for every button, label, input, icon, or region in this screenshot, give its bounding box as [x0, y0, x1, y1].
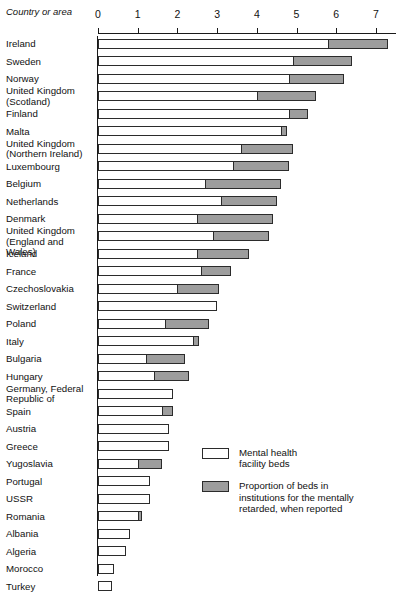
stacked-bar — [98, 354, 185, 364]
chart-row: Turkey — [0, 580, 402, 598]
category-label: Italy — [6, 337, 94, 348]
chart-row: France — [0, 265, 402, 283]
chart-row: Spain — [0, 405, 402, 423]
x-axis-tick-mark — [138, 28, 139, 34]
category-label: Switzerland — [6, 302, 94, 313]
bar-segment-mental-health-beds — [98, 581, 112, 591]
bar-segment-mental-health-beds — [98, 564, 114, 574]
stacked-bar — [98, 179, 281, 189]
x-axis-tick-mark — [177, 28, 178, 34]
stacked-bar — [98, 74, 344, 84]
stacked-bar — [98, 529, 130, 539]
stacked-bar — [98, 109, 308, 119]
category-label: Algeria — [6, 547, 94, 558]
chart-row: Poland — [0, 317, 402, 335]
x-axis-tick-label: 3 — [207, 8, 227, 20]
bar-segment-mental-health-beds — [98, 284, 177, 294]
bar-segment-mentally-retarded-beds — [146, 354, 186, 364]
bar-segment-mental-health-beds — [98, 511, 138, 521]
stacked-bar — [98, 231, 269, 241]
bar-segment-mental-health-beds — [98, 39, 328, 49]
x-axis-tick-mark — [217, 28, 218, 34]
category-label: Malta — [6, 127, 94, 138]
chart-row: United Kingdom (Scotland) — [0, 90, 402, 108]
bar-segment-mental-health-beds — [98, 546, 126, 556]
stacked-bar — [98, 371, 189, 381]
bar-segment-mentally-retarded-beds — [281, 126, 287, 136]
chart-row: Ireland — [0, 37, 402, 55]
category-label: Ireland — [6, 39, 94, 50]
x-axis-tick-label: 4 — [247, 8, 267, 20]
bar-segment-mental-health-beds — [98, 179, 205, 189]
chart-legend: Mental health facility bedsProportion of… — [202, 447, 398, 525]
chart-row: Austria — [0, 422, 402, 440]
chart-row: Switzerland — [0, 300, 402, 318]
chart-row: Bulgaria — [0, 352, 402, 370]
stacked-bar — [98, 511, 142, 521]
category-label: Morocco — [6, 564, 94, 575]
category-label: Portugal — [6, 477, 94, 488]
bar-segment-mental-health-beds — [98, 109, 289, 119]
bar-segment-mentally-retarded-beds — [257, 91, 317, 101]
stacked-bar — [98, 161, 289, 171]
gray-swatch-icon — [202, 481, 229, 492]
legend-item: Proportion of beds in institutions for t… — [202, 480, 398, 514]
stacked-bar — [98, 564, 114, 574]
bar-segment-mentally-retarded-beds — [165, 319, 209, 329]
bar-segment-mental-health-beds — [98, 214, 197, 224]
stacked-bar — [98, 284, 219, 294]
category-label: Belgium — [6, 179, 94, 190]
stacked-bar — [98, 214, 273, 224]
stacked-bar — [98, 266, 231, 276]
category-label: Norway — [6, 74, 94, 85]
chart-row: Belgium — [0, 177, 402, 195]
bar-segment-mental-health-beds — [98, 424, 169, 434]
category-label: France — [6, 267, 94, 278]
stacked-bar — [98, 406, 173, 416]
category-label: Spain — [6, 407, 94, 418]
category-label: Greece — [6, 442, 94, 453]
chart-row: Iceland — [0, 247, 402, 265]
chart-row: Albania — [0, 527, 402, 545]
chart-row: Sweden — [0, 55, 402, 73]
bar-segment-mentally-retarded-beds — [197, 214, 272, 224]
category-label: Romania — [6, 512, 94, 523]
category-label: Austria — [6, 424, 94, 435]
chart-row: United Kingdom (Northern Ireland) — [0, 142, 402, 160]
x-axis-tick-mark — [336, 28, 337, 34]
stacked-bar — [98, 389, 173, 399]
bar-segment-mental-health-beds — [98, 371, 154, 381]
chart-row: Netherlands — [0, 195, 402, 213]
bar-segment-mentally-retarded-beds — [162, 406, 174, 416]
bar-segment-mentally-retarded-beds — [205, 179, 280, 189]
x-axis-tick-label: 6 — [326, 8, 346, 20]
stacked-bar — [98, 441, 169, 451]
stacked-bar — [98, 301, 217, 311]
category-label: Finland — [6, 109, 94, 120]
stacked-bar — [98, 144, 293, 154]
bar-segment-mental-health-beds — [98, 476, 150, 486]
bar-segment-mental-health-beds — [98, 91, 257, 101]
bar-segment-mental-health-beds — [98, 249, 197, 259]
stacked-bar — [98, 494, 150, 504]
bar-segment-mental-health-beds — [98, 126, 281, 136]
stacked-bar — [98, 196, 277, 206]
bar-segment-mental-health-beds — [98, 354, 146, 364]
category-label: United Kingdom (Northern Ireland) — [6, 139, 94, 160]
stacked-bar — [98, 459, 162, 469]
bar-segment-mentally-retarded-beds — [289, 74, 345, 84]
bar-segment-mental-health-beds — [98, 74, 289, 84]
bar-segment-mentally-retarded-beds — [328, 39, 388, 49]
category-label: Poland — [6, 319, 94, 330]
category-label: Yugoslavia — [6, 459, 94, 470]
chart-row: Germany, Federal Republic of — [0, 387, 402, 405]
bar-segment-mental-health-beds — [98, 529, 130, 539]
x-axis-tick-label: 1 — [128, 8, 148, 20]
bar-segment-mentally-retarded-beds — [197, 249, 249, 259]
bar-segment-mentally-retarded-beds — [193, 336, 199, 346]
chart-row: Algeria — [0, 545, 402, 563]
category-label: Albania — [6, 529, 94, 540]
legend-item: Mental health facility beds — [202, 447, 398, 469]
legend-label: Mental health facility beds — [239, 447, 297, 469]
x-axis-tick-mark — [257, 28, 258, 34]
